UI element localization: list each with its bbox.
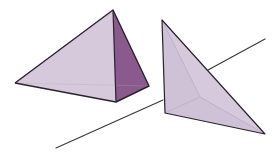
left-tetrahedron-light-face	[15, 10, 116, 102]
line-segment-front	[56, 100, 163, 148]
figure-canvas: Two tetrahedra and a line	[0, 0, 277, 155]
left-tetrahedron	[15, 10, 149, 102]
geometry-diagram	[0, 0, 277, 155]
line-segment-back	[208, 39, 265, 70]
right-tetrahedron	[162, 20, 265, 134]
